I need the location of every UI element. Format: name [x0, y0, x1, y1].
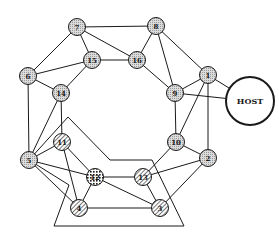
edge-7-6 [28, 27, 77, 76]
node-label: 8 [154, 22, 159, 31]
node-label: 11 [57, 138, 67, 147]
node-label: 16 [132, 56, 142, 65]
node-label: 5 [27, 156, 32, 165]
node-15: 15 [84, 52, 101, 69]
node-14: 14 [53, 85, 70, 102]
node-label: 7 [75, 23, 80, 32]
node-label: 15 [87, 56, 97, 65]
node-2: 2 [200, 150, 217, 167]
host-node: HOST [226, 77, 274, 125]
node-5: 5 [21, 152, 38, 169]
edge-1-10 [176, 75, 208, 142]
edge-7-8 [77, 26, 156, 27]
node-7: 7 [69, 19, 86, 36]
node-16: 16 [129, 52, 146, 69]
nodes: 12345678910111213141516HOST [20, 18, 275, 217]
node-label: 9 [173, 89, 178, 98]
edge-14-5 [29, 93, 61, 160]
node-label: 2 [206, 154, 211, 163]
node-label: 6 [26, 72, 31, 81]
node-11: 11 [54, 134, 71, 151]
edge-8-9 [156, 26, 175, 93]
node-13: 13 [135, 169, 152, 186]
node-label: 14 [56, 89, 66, 98]
node-label: 10 [171, 138, 181, 147]
edge-5-4 [29, 160, 79, 208]
node-label: 1 [206, 71, 211, 80]
node-8: 8 [148, 18, 165, 35]
node-1: 1 [200, 67, 217, 84]
edge-5-12 [29, 160, 95, 177]
node-4: 4 [71, 200, 88, 217]
node-label: 3 [158, 204, 163, 213]
node-10: 10 [168, 134, 185, 151]
host-label: HOST [237, 96, 263, 106]
edge-6-5 [28, 76, 29, 160]
node-label: 13 [138, 173, 148, 182]
node-12: 12 [87, 169, 104, 186]
network-diagram: 12345678910111213141516HOST [0, 0, 279, 241]
edge-15-6 [28, 60, 92, 76]
node-9: 9 [167, 85, 184, 102]
node-label: 12 [90, 173, 100, 182]
node-label: 4 [77, 204, 82, 213]
node-6: 6 [20, 68, 37, 85]
edge-8-1 [156, 26, 208, 75]
node-3: 3 [152, 200, 169, 217]
